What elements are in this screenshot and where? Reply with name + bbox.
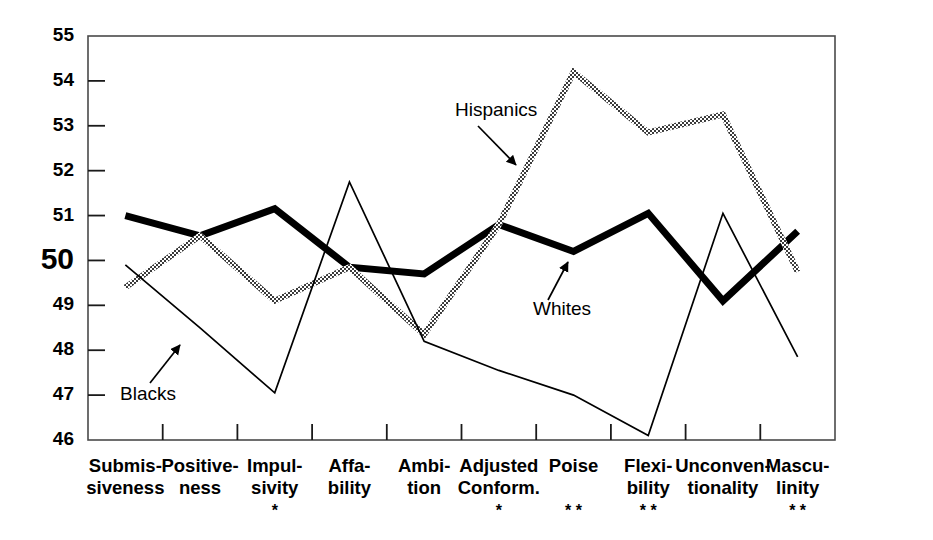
y-tick-label-49: 49 [53,293,74,314]
x-tick-label-5-line-1: Conform. [458,477,540,498]
y-tick-label-47: 47 [53,383,74,404]
series-annotation-arrow-hispanics [478,126,516,165]
y-tick-label-50: 50 [41,242,74,275]
line-chart: 46474849505152535455 HispanicsWhitesBlac… [0,0,933,540]
series-annotations: HispanicsWhitesBlacks [120,99,591,404]
x-tick-label-2-line-0: Impul- [247,455,303,476]
series-annotation-label-hispanics: Hispanics [455,99,537,120]
x-tick-label-4-line-1: tion [407,477,441,498]
x-tick-label-8-line-0: Unconven- [675,455,771,476]
x-tick-label-0-line-0: Submis- [89,455,162,476]
series-annotation-label-blacks: Blacks [120,383,176,404]
significance-marker-5: * [496,502,503,519]
y-tick-label-46: 46 [53,428,74,449]
significance-markers: *** ** ** * [272,502,807,519]
x-tick-label-7-line-0: Flexi- [624,455,672,476]
significance-marker-6: * * [565,502,583,519]
data-series-group [125,72,797,436]
significance-marker-9: * * [789,502,807,519]
x-tick-label-1-line-0: Positive- [161,455,238,476]
x-axis-labels: Submis-sivenessPositive-nessImpul-sivity… [86,455,829,498]
x-tick-label-9-line-1: linity [776,477,820,498]
y-axis-labels: 46474849505152535455 [41,24,75,449]
series-line-blacks [125,182,797,436]
series-annotation-arrow-blacks [150,345,180,383]
x-tick-label-5-line-0: Adjusted [459,455,538,476]
x-tick-label-6-line-0: Poise [549,455,598,476]
significance-marker-7: * * [640,502,658,519]
x-tick-label-0-line-1: siveness [86,477,164,498]
x-tick-label-3-line-0: Affa- [328,455,370,476]
series-annotation-arrow-whites [548,262,568,300]
y-tick-label-51: 51 [53,204,75,225]
y-tick-label-54: 54 [53,69,75,90]
x-tick-label-9-line-0: Mascu- [766,455,830,476]
y-axis-ticks [88,81,105,395]
x-tick-label-8-line-1: tionality [687,477,759,498]
x-tick-label-7-line-1: bility [627,477,671,498]
x-tick-label-1-line-1: ness [179,477,221,498]
x-axis-ticks [163,424,761,440]
series-annotation-label-whites: Whites [533,298,591,319]
y-tick-label-48: 48 [53,338,74,359]
x-tick-label-4-line-0: Ambi- [398,455,450,476]
y-tick-label-55: 55 [53,24,75,45]
significance-marker-2: * [272,502,279,519]
y-tick-label-52: 52 [53,159,74,180]
y-tick-label-53: 53 [53,114,74,135]
x-tick-label-2-line-1: sivity [251,477,299,498]
chart-container: 46474849505152535455 HispanicsWhitesBlac… [0,0,933,540]
x-tick-label-3-line-1: bility [328,477,372,498]
